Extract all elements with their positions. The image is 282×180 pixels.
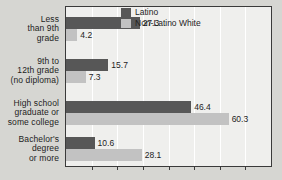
bar-value-label: 4.2	[80, 29, 92, 41]
bar-value-label: 60.3	[232, 113, 249, 125]
x-axis-tick	[220, 166, 221, 170]
bar-value-label: 46.4	[194, 101, 211, 113]
bar-latino[interactable]	[66, 59, 108, 71]
x-axis-tick	[194, 166, 195, 170]
plot-area	[65, 6, 272, 167]
x-axis-tick	[92, 166, 93, 170]
x-axis-tick	[117, 166, 118, 170]
bar-non-latino-white[interactable]	[66, 71, 86, 83]
legend: Latino Non-Latino White	[121, 8, 201, 28]
legend-label-latino: Latino	[135, 8, 158, 17]
legend-swatch-non-latino-white-icon	[121, 19, 131, 28]
category-label-bachelors-degree: Bachelor's degree or more	[19, 135, 59, 164]
x-axis-tick	[245, 166, 246, 170]
gridline	[194, 7, 195, 166]
legend-label-non-latino-white: Non-Latino White	[135, 19, 201, 28]
x-axis-tick	[143, 166, 144, 170]
bar-non-latino-white[interactable]	[66, 29, 77, 41]
bar-latino[interactable]	[66, 101, 191, 113]
legend-item-latino[interactable]: Latino	[121, 8, 201, 17]
bar-value-label: 15.7	[111, 59, 128, 71]
education-attainment-bar-chart: Less than 9th grade 9th to 12th grade (n…	[0, 0, 282, 180]
gridline	[220, 7, 221, 166]
legend-swatch-latino-icon	[121, 8, 131, 17]
bar-value-label: 7.3	[89, 71, 101, 83]
gridline	[169, 7, 170, 166]
category-label-less-than-9th-grade: Less than 9th grade	[27, 15, 59, 44]
bar-non-latino-white[interactable]	[66, 149, 142, 161]
gridline	[245, 7, 246, 166]
bar-value-label: 28.1	[145, 149, 162, 161]
bar-value-label: 10.6	[98, 137, 115, 149]
x-axis-tick	[169, 166, 170, 170]
y-axis-category-labels: Less than 9th grade 9th to 12th grade (n…	[0, 8, 62, 172]
legend-item-non-latino-white[interactable]: Non-Latino White	[121, 19, 201, 28]
category-label-9th-to-12th-grade: 9th to 12th grade (no diploma)	[11, 57, 59, 86]
gridline	[143, 7, 144, 166]
gridline	[117, 7, 118, 166]
bar-latino[interactable]	[66, 137, 95, 149]
bar-non-latino-white[interactable]	[66, 113, 229, 125]
category-label-high-school-graduate: High school graduate or some college	[8, 99, 59, 128]
